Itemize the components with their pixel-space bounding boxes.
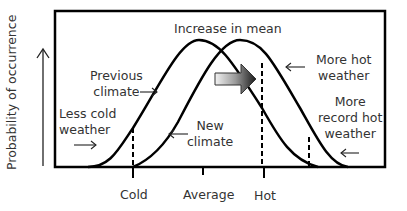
climate-shift-diagram: Probability of occurrence Increase in me… (0, 0, 407, 211)
previous-climate-label: Previous climate (90, 68, 143, 100)
diagram-title: Increase in mean (174, 21, 282, 37)
y-axis-arrow-icon (37, 49, 49, 166)
x-tick-cold: Cold (120, 187, 148, 203)
x-tick-average: Average (183, 187, 234, 203)
new-climate-label: New climate (187, 118, 233, 150)
less-cold-arrow-icon (74, 141, 96, 149)
record-hot-label: More record hot weather (318, 94, 382, 142)
new-climate-arrow-icon (169, 130, 188, 138)
more-hot-label: More hot weather (316, 52, 371, 84)
more-hot-arrow-icon (286, 63, 305, 71)
record-hot-arrow-icon (341, 149, 359, 157)
less-cold-label: Less cold weather (59, 106, 116, 138)
x-tick-hot: Hot (254, 188, 276, 204)
y-axis-label: Probability of occurrence (4, 15, 19, 170)
